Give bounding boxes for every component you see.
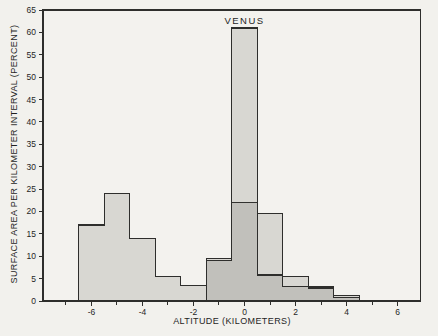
y-tick-label: 15: [27, 229, 37, 239]
y-tick-label: 30: [27, 162, 37, 172]
y-tick-label: 45: [27, 95, 37, 105]
x-tick-label: 2: [293, 307, 298, 317]
x-tick-label: 6: [395, 307, 400, 317]
y-tick-label: 10: [27, 251, 37, 261]
y-tick-label: 40: [27, 117, 37, 127]
x-axis-ticks: -6-4-20246: [66, 301, 400, 317]
y-tick-label: 55: [27, 50, 37, 60]
venus-hypsometry-figure: -6-4-2024605101520253035404550556065 SUR…: [0, 0, 438, 336]
histogram-chart: -6-4-2024605101520253035404550556065: [0, 0, 438, 336]
y-tick-label: 0: [31, 296, 36, 306]
y-axis-title: SURFACE AREA PER KILOMETER INTERVAL (PER…: [9, 9, 19, 300]
y-tick-label: 35: [27, 139, 37, 149]
x-tick-label: 0: [242, 307, 247, 317]
x-axis-title: ALTITUDE (KILOMETERS): [43, 316, 421, 326]
x-tick-label: 4: [344, 307, 349, 317]
venus-annotation: VENUS: [194, 15, 295, 26]
x-tick-label: -6: [88, 307, 96, 317]
y-tick-label: 60: [27, 27, 37, 37]
y-tick-label: 5: [31, 274, 36, 284]
y-tick-label: 25: [27, 184, 37, 194]
y-axis-ticks: 05101520253035404550556065: [27, 5, 43, 306]
x-tick-label: -4: [139, 307, 147, 317]
x-tick-label: -2: [190, 307, 198, 317]
y-tick-label: 50: [27, 72, 37, 82]
y-tick-label: 20: [27, 206, 37, 216]
y-tick-label: 65: [27, 5, 37, 15]
